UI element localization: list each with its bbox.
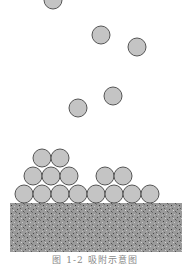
adsorbed-particle [51, 185, 69, 203]
adsorbed-particle [123, 185, 141, 203]
adsorbed-particle [105, 185, 123, 203]
adsorbed-particle [114, 167, 132, 185]
adsorbed-particle [87, 185, 105, 203]
adsorbed-particle [141, 185, 159, 203]
adsorbed-particle [42, 167, 60, 185]
adsorbed-particle [15, 185, 33, 203]
adsorbed-particle [60, 167, 78, 185]
free-particle [92, 26, 110, 44]
adsorbed-particle [69, 185, 87, 203]
free-particle [44, 0, 62, 9]
adsorbed-particle [33, 149, 51, 167]
free-particle [104, 87, 122, 105]
adsorption-diagram [0, 0, 190, 269]
adsorbed-particle [96, 167, 114, 185]
adsorbed-particle [51, 149, 69, 167]
substrate [10, 203, 182, 252]
substrate-surface [10, 203, 182, 252]
adsorbed-particle [24, 167, 42, 185]
figure-caption: 图 1-2 吸附示意图 [0, 253, 190, 266]
particles [15, 0, 159, 203]
free-particle [128, 38, 146, 56]
free-particle [69, 99, 87, 117]
adsorbed-particle [33, 185, 51, 203]
